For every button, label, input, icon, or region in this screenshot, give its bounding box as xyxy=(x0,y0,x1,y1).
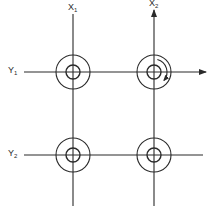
grid-diagram xyxy=(0,0,213,214)
column-label-subscript: 1 xyxy=(74,7,77,13)
column-label-subscript: 2 xyxy=(155,3,158,9)
row-label-subscript: 2 xyxy=(14,153,17,159)
column-label-x2: X2 xyxy=(149,0,158,9)
row-label-subscript: 1 xyxy=(14,70,17,76)
row-label-y2: Y2 xyxy=(8,149,17,159)
grid-lines xyxy=(24,10,206,206)
row-label-y1: Y1 xyxy=(8,66,17,76)
column-label-x1: X1 xyxy=(68,3,77,13)
